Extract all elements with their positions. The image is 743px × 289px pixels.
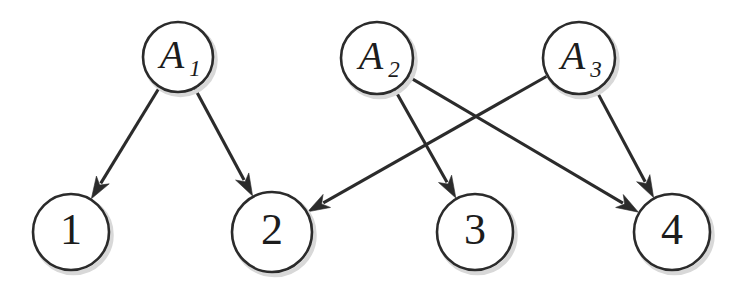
node-task-t3[interactable]: 3 xyxy=(437,194,516,273)
edge-line xyxy=(101,88,159,184)
node-label-task: 3 xyxy=(464,205,486,254)
node-label-task: 2 xyxy=(261,205,283,254)
node-task-t1[interactable]: 1 xyxy=(33,194,112,273)
node-task-t2[interactable]: 2 xyxy=(232,192,315,275)
edge-a3-to-t2 xyxy=(308,76,547,212)
arrowhead-icon xyxy=(308,194,331,211)
node-agent-a1[interactable]: A1 xyxy=(143,22,216,95)
node-label-agent: A xyxy=(558,33,586,78)
graph-svg: A1A2A31234 xyxy=(0,0,743,289)
diagram-canvas: A1A2A31234 xyxy=(0,0,743,289)
node-label-subscript: 2 xyxy=(388,57,400,82)
node-agent-a3[interactable]: A3 xyxy=(543,22,618,97)
arrowhead-icon xyxy=(616,195,639,213)
node-task-t4[interactable]: 4 xyxy=(634,194,713,273)
edge-a1-to-t2 xyxy=(195,89,253,196)
node-label-agent: A xyxy=(157,32,185,77)
edge-a1-to-t1 xyxy=(91,88,159,199)
edge-line xyxy=(596,91,645,182)
edge-line xyxy=(195,89,244,180)
node-agent-a2[interactable]: A2 xyxy=(341,22,416,97)
arrowhead-icon xyxy=(236,173,253,196)
node-label-task: 1 xyxy=(60,205,82,254)
node-label-subscript: 3 xyxy=(589,57,602,82)
arrowhead-icon xyxy=(637,175,654,198)
node-layer: A1A2A31234 xyxy=(33,22,713,275)
arrowhead-icon xyxy=(439,175,456,198)
edge-a2-to-t4 xyxy=(409,77,639,212)
node-label-task: 4 xyxy=(661,205,683,254)
arrowhead-icon xyxy=(91,176,109,199)
edge-a3-to-t4 xyxy=(596,91,653,198)
node-label-subscript: 1 xyxy=(189,56,201,81)
node-label-agent: A xyxy=(356,33,384,78)
